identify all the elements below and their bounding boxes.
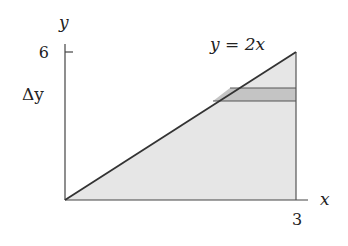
x-axis-label: x	[320, 189, 330, 209]
y-tick-label: 6	[39, 43, 49, 62]
diagram-canvas: y 6 Δy y = 2x x 3	[0, 0, 348, 246]
delta-y-strip	[213, 88, 296, 101]
curve-label: y = 2x	[209, 34, 265, 54]
delta-y-label: Δy	[22, 84, 44, 104]
x-tick-label: 3	[292, 210, 302, 229]
y-axis-label: y	[58, 12, 69, 32]
